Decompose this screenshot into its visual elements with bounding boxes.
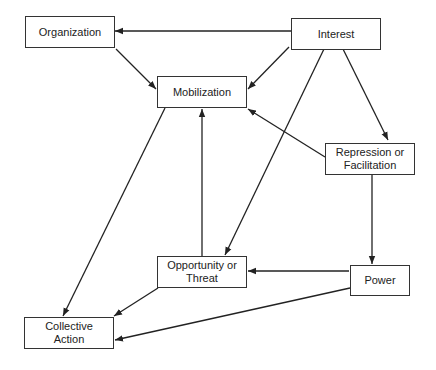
- arrow-power-to-collective_action: [115, 288, 350, 340]
- node-label: Opportunity or Threat: [167, 259, 237, 285]
- arrow-organization-to-mobilization: [116, 49, 156, 89]
- node-power: Power: [350, 265, 410, 296]
- node-label: Repression or Facilitation: [336, 146, 404, 172]
- arrow-interest-to-mobilization: [248, 47, 289, 89]
- arrow-opportunity-to-collective_action: [114, 288, 158, 316]
- node-collective-action: Collective Action: [24, 317, 114, 349]
- node-mobilization: Mobilization: [157, 76, 247, 108]
- node-label: Power: [364, 274, 395, 287]
- node-label: Interest: [318, 28, 355, 41]
- node-organization: Organization: [25, 16, 115, 48]
- node-label: Organization: [39, 26, 101, 39]
- node-repression: Repression or Facilitation: [325, 143, 415, 175]
- edges-layer: [0, 0, 436, 370]
- node-label: Collective Action: [45, 320, 93, 346]
- arrow-repression-to-mobilization: [248, 109, 325, 157]
- node-interest: Interest: [291, 18, 381, 50]
- arrow-interest-to-repression: [343, 49, 388, 140]
- node-label: Mobilization: [173, 86, 231, 99]
- node-opportunity: Opportunity or Threat: [157, 256, 247, 288]
- arrow-mobilization-to-collective_action: [63, 108, 165, 316]
